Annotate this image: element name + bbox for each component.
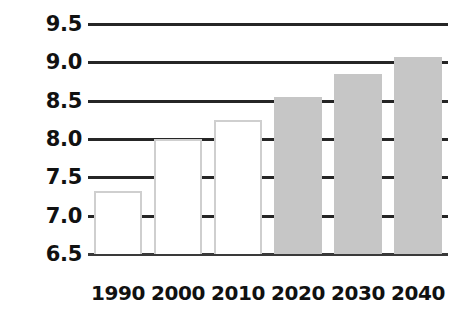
x-axis-tick-label: 2000 — [151, 283, 205, 303]
x-axis-tick-labels: 199020002010202020302040 — [88, 283, 448, 313]
y-axis-tick-label: 9.5 — [4, 14, 82, 35]
y-axis-tick-labels: 6.57.07.58.08.59.09.5 — [0, 0, 82, 325]
y-axis-tick-label: 7.5 — [4, 167, 82, 188]
bar-2020 — [274, 97, 322, 254]
plot-area — [88, 24, 448, 254]
bar-2010 — [214, 120, 262, 254]
x-axis-tick-label: 2020 — [271, 283, 325, 303]
x-axis-tick-label: 2010 — [211, 283, 265, 303]
x-axis-tick-label: 1990 — [91, 283, 145, 303]
x-axis-tick-label: 2040 — [391, 283, 445, 303]
bar-1990 — [94, 191, 142, 254]
bar-2030 — [334, 74, 382, 254]
y-axis-tick-label: 9.0 — [4, 52, 82, 73]
y-axis-tick-label: 8.0 — [4, 129, 82, 150]
y-axis-tick-label: 7.0 — [4, 205, 82, 226]
bar-chart: 6.57.07.58.08.59.09.5 199020002010202020… — [0, 0, 463, 325]
bar-2040 — [394, 57, 442, 254]
y-axis-tick-label: 8.5 — [4, 90, 82, 111]
bar-2000 — [154, 139, 202, 254]
bars-group — [88, 24, 448, 254]
y-axis-tick-label: 6.5 — [4, 244, 82, 265]
x-axis-tick-label: 2030 — [331, 283, 385, 303]
